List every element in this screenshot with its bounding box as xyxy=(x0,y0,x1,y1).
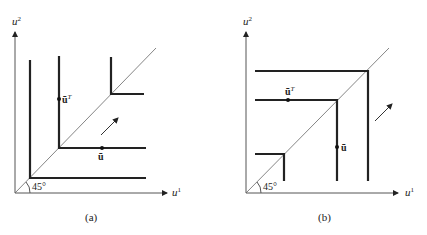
indifference-curve-b-1 xyxy=(255,154,284,181)
indifference-curve-a-1 xyxy=(30,60,146,178)
x-axis-label-a: u1 xyxy=(172,186,182,198)
point-label-lower-b: ū xyxy=(341,142,347,153)
preference-arrow-a xyxy=(101,118,118,135)
preference-arrow-b xyxy=(375,104,392,121)
point-label-upper-b: ūT xyxy=(285,85,296,97)
angle-label-a: 45° xyxy=(32,181,46,192)
x-axis-label-b: u1 xyxy=(405,186,415,198)
angle-arc-a xyxy=(26,182,30,193)
panel-b: u2 u1 45° ūT ū (b) xyxy=(243,15,415,224)
angle-label-b: 45° xyxy=(263,181,277,192)
indifference-curve-b-3 xyxy=(255,71,368,181)
point-u-bar-T-b xyxy=(286,98,290,102)
angle-arc-b xyxy=(257,182,261,193)
y-axis-label-b: u2 xyxy=(243,15,253,27)
indifference-curve-b-2 xyxy=(255,100,337,181)
y-axis-label-a: u2 xyxy=(12,15,22,27)
point-label-upper-a: ūT xyxy=(62,93,73,105)
point-u-bar-a xyxy=(100,146,104,150)
point-u-bar-T-a xyxy=(57,97,61,101)
indifference-curve-a-3 xyxy=(111,57,144,94)
caption-a: (a) xyxy=(85,211,98,224)
panel-a: u2 u1 45° ūT ū (a) xyxy=(12,15,182,224)
figure: u2 u1 45° ūT ū (a) u2 u1 45° ūT ū (b) xyxy=(0,0,427,235)
caption-b: (b) xyxy=(318,211,331,224)
point-u-bar-b xyxy=(335,145,339,149)
point-label-lower-a: ū xyxy=(98,151,104,162)
diagonal-45-a xyxy=(15,48,156,193)
